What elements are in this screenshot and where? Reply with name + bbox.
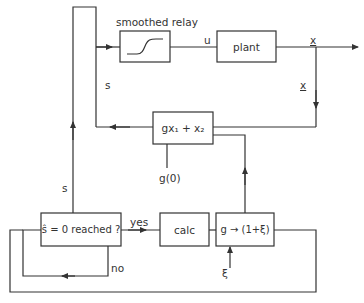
plant-label: plant (217, 31, 276, 62)
g0-label: g(0) (159, 173, 181, 184)
no-label: no (111, 263, 124, 274)
decision-label: ŝ = 0 reached ? (41, 213, 121, 246)
xi-label: ξ (222, 268, 228, 279)
s-lower-label: s (62, 183, 67, 194)
x-output-label: x (310, 35, 316, 46)
gain-update-label: g → (1+ξ) (216, 213, 274, 246)
s-loop-wire (73, 7, 96, 213)
s-upper-label: s (105, 80, 110, 91)
relay-label: smoothed relay (116, 17, 198, 28)
switching-function-label: gx₁ + x₂ (153, 112, 213, 144)
yes-label: yes (130, 217, 148, 228)
g-update-wire (213, 135, 245, 213)
calc-label: calc (160, 213, 209, 246)
u-signal-label: u (204, 35, 211, 46)
x-feedback-label: x (300, 80, 306, 91)
